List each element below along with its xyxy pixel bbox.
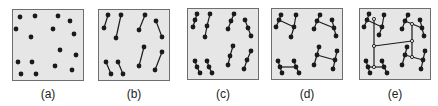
data-point: [34, 72, 39, 77]
data-point: [142, 45, 147, 50]
data-point: [422, 34, 427, 39]
data-point: [116, 60, 121, 65]
data-point: [143, 13, 148, 18]
data-point: [56, 14, 61, 19]
data-point: [14, 27, 19, 32]
data-point: [421, 58, 426, 63]
data-point: [278, 65, 283, 70]
data-point: [405, 45, 410, 50]
cluster-node: [410, 55, 413, 58]
data-point: [294, 65, 299, 70]
data-point: [400, 27, 405, 32]
data-point: [365, 18, 370, 23]
data-point: [193, 59, 198, 64]
data-point: [403, 53, 408, 58]
panel-c: [187, 8, 259, 80]
data-point: [153, 68, 158, 73]
data-point: [30, 60, 35, 65]
data-point: [279, 13, 284, 18]
cluster-node: [372, 65, 375, 68]
panel-label-c: (c): [193, 87, 253, 101]
data-point: [228, 54, 233, 59]
edge: [116, 15, 121, 38]
data-point: [195, 12, 200, 17]
data-point: [312, 27, 317, 32]
data-point: [297, 71, 302, 76]
edge: [155, 52, 162, 70]
data-point: [229, 19, 234, 24]
data-point: [274, 25, 279, 30]
data-point: [231, 44, 236, 49]
cluster-node: [410, 22, 413, 25]
data-point: [106, 13, 111, 18]
data-point: [243, 18, 248, 23]
data-point: [330, 18, 335, 23]
data-point: [292, 59, 297, 64]
data-point: [403, 19, 408, 24]
data-point: [317, 45, 322, 50]
data-point: [207, 65, 212, 70]
graph-d: [272, 9, 342, 79]
cluster-node: [410, 39, 413, 42]
data-point: [315, 19, 320, 24]
data-point: [315, 53, 320, 58]
data-point: [335, 49, 340, 54]
data-point: [276, 59, 281, 64]
data-point: [366, 65, 371, 70]
data-point: [367, 12, 372, 17]
data-point: [280, 71, 285, 76]
data-point: [119, 13, 124, 18]
data-point: [380, 59, 385, 64]
data-point: [249, 34, 254, 39]
graph-b: [99, 10, 169, 80]
data-point: [19, 72, 24, 77]
data-point: [58, 48, 63, 53]
graph-a: [13, 10, 83, 80]
data-point: [198, 71, 203, 76]
data-point: [423, 49, 428, 54]
data-point: [331, 67, 336, 72]
data-point: [191, 25, 196, 30]
data-point: [292, 25, 297, 30]
data-point: [137, 28, 142, 33]
data-point: [33, 14, 38, 19]
data-point: [53, 64, 58, 69]
data-point: [104, 60, 109, 65]
data-point: [332, 26, 337, 31]
data-point: [203, 35, 208, 40]
panel-label-e: (e): [365, 87, 425, 101]
data-point: [249, 49, 254, 54]
cluster-node: [372, 17, 375, 20]
data-point: [70, 68, 75, 73]
panel-label-d: (d): [277, 87, 337, 101]
data-point: [242, 67, 247, 72]
data-point: [406, 13, 411, 18]
panel-b: [98, 9, 170, 81]
panel-e: [359, 8, 431, 80]
data-point: [51, 27, 56, 32]
data-point: [72, 32, 77, 37]
data-point: [333, 58, 338, 63]
data-point: [400, 63, 405, 68]
edge: [156, 21, 162, 37]
data-point: [226, 27, 231, 32]
data-point: [160, 50, 165, 55]
data-point: [205, 24, 210, 29]
panel-d: [271, 8, 343, 80]
data-point: [210, 71, 215, 76]
data-point: [114, 36, 119, 41]
data-point: [226, 63, 231, 68]
data-point: [16, 60, 21, 65]
data-point: [193, 18, 198, 23]
cluster-node: [372, 44, 375, 47]
data-point: [294, 13, 299, 18]
data-point: [289, 35, 294, 40]
data-point: [205, 59, 210, 64]
data-point: [160, 35, 165, 40]
data-point: [334, 34, 339, 39]
panel-label-b: (b): [104, 87, 164, 101]
edge: [405, 55, 423, 60]
data-point: [380, 25, 385, 30]
panel-label-a: (a): [18, 87, 78, 101]
data-point: [232, 12, 237, 17]
